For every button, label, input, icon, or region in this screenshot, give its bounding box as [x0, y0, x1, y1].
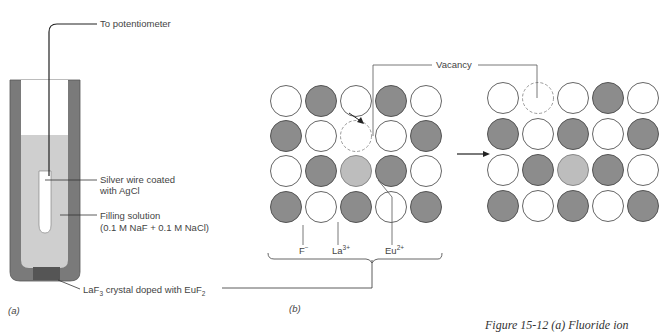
fluoride-ion: [628, 155, 659, 186]
filling-label-2: (0.1 M NaF + 0.1 M NaCl): [100, 222, 209, 233]
fluoride-ion: [271, 156, 302, 187]
lanthanum-ion: [628, 191, 659, 222]
lanthanum-ion: [376, 156, 407, 187]
fluoride-ion: [628, 83, 659, 114]
ion-eu-label: Eu2+: [385, 242, 404, 256]
fluoride-ion: [411, 156, 442, 187]
europium-ion: [558, 155, 589, 186]
lanthanum-ion: [306, 86, 337, 117]
crystal-label: LaF3 crystal doped with EuF2: [83, 284, 205, 299]
fluoride-ion: [306, 192, 337, 223]
lanthanum-ion: [593, 155, 624, 186]
fluoride-ion: [411, 86, 442, 117]
lanthanum-ion: [411, 192, 442, 223]
lanthanum-ion: [341, 192, 372, 223]
fluoride-ion: [593, 119, 624, 150]
lanthanum-ion: [593, 83, 624, 114]
fluoride-ion: [488, 83, 519, 114]
lanthanum-ion: [306, 156, 337, 187]
laf3-crystal: [33, 267, 60, 280]
lanthanum-ion: [488, 191, 519, 222]
vacancy-label: Vacancy: [436, 59, 472, 70]
fluoride-ion: [341, 86, 372, 117]
fluoride-ion: [523, 119, 554, 150]
lanthanum-ion: [411, 121, 442, 152]
lanthanum-ion: [271, 192, 302, 223]
fluoride-ion: [376, 121, 407, 152]
vacancy-site: [341, 121, 372, 152]
ion-f-label: F−: [299, 242, 309, 256]
europium-ion: [341, 156, 372, 187]
fluoride-ion: [271, 86, 302, 117]
lanthanum-ion: [271, 121, 302, 152]
lanthanum-ion: [523, 155, 554, 186]
fluoride-ion: [523, 191, 554, 222]
fluoride-ion: [306, 121, 337, 152]
lanthanum-ion: [376, 86, 407, 117]
figure-caption: Figure 15-12 (a) Fluoride ion: [485, 318, 629, 333]
lanthanum-ion: [558, 119, 589, 150]
fluoride-ion: [593, 191, 624, 222]
lanthanum-ion: [628, 119, 659, 150]
fluoride-ion: [558, 83, 589, 114]
silver-wire-label-2: with AgCl: [100, 185, 140, 196]
fluoride-ion: [488, 155, 519, 186]
filling-label-1: Filling solution: [100, 210, 160, 221]
lattice-brace: [268, 253, 442, 263]
to-potentiometer-label: To potentiometer: [100, 18, 171, 29]
panel-a-label: (a): [8, 305, 20, 316]
lanthanum-ion: [488, 119, 519, 150]
lanthanum-ion: [558, 191, 589, 222]
vacancy-site: [523, 83, 554, 114]
lattice-before: [271, 86, 442, 223]
panel-b-label: (b): [289, 303, 301, 314]
ion-la-label: La3+: [332, 242, 350, 256]
silver-wire-label-1: Silver wire coated: [100, 174, 175, 185]
lattice-after: [488, 83, 659, 222]
